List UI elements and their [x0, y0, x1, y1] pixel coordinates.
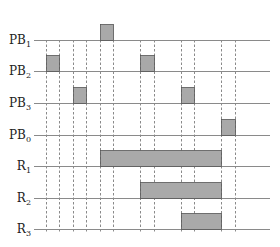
- signal-pulse: [101, 151, 222, 167]
- signal-label: R3: [17, 222, 31, 238]
- signal-pulse: [47, 56, 60, 72]
- signal-pulse: [182, 214, 222, 230]
- signal-pulse: [182, 88, 195, 104]
- signal-pulse: [74, 88, 87, 104]
- signal-label: PB2: [9, 64, 31, 80]
- signal-label: R2: [17, 191, 31, 207]
- signal-label: R1: [17, 159, 31, 175]
- signal-label: PB0: [9, 128, 31, 144]
- signal-pulse: [101, 25, 114, 41]
- signal-labels: PB1PB2PB3PB0R1R2R3: [9, 33, 31, 238]
- timing-diagram: PB1PB2PB3PB0R1R2R3: [0, 0, 280, 247]
- signal-label: PB1: [9, 33, 31, 49]
- signal-label: PB3: [9, 96, 31, 112]
- signal-pulse: [222, 120, 236, 136]
- signal-pulse: [141, 56, 155, 72]
- signal-pulse: [141, 183, 222, 199]
